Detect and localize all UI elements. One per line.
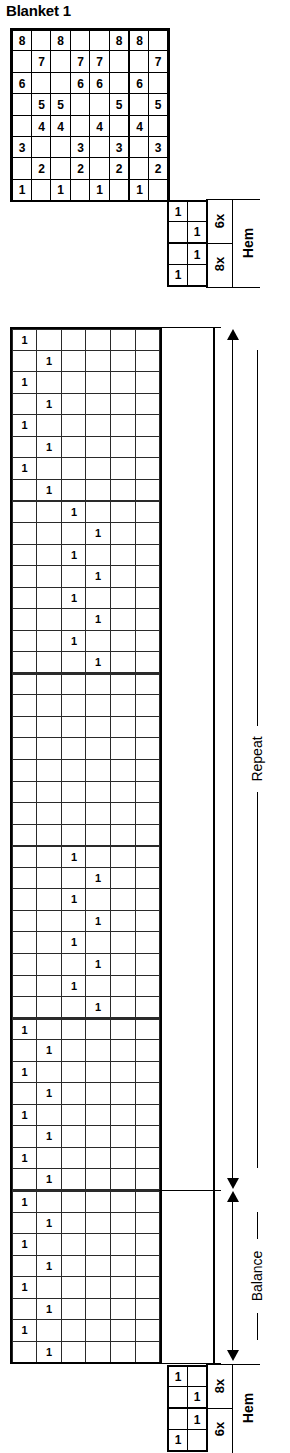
treadling-cell-r18-c5	[110, 694, 136, 717]
treadling-cell-r1-c5	[110, 328, 136, 351]
treadling-cell-r7-c4	[85, 457, 111, 480]
treadling-cell-r25-c6	[135, 845, 161, 868]
treadling-cell-r38-c5	[110, 1125, 136, 1148]
threading-cell-r7-c4: 2	[70, 157, 91, 180]
treadling-cell-r28-c5	[110, 910, 136, 933]
treadling-cell-r44-c6	[135, 1255, 161, 1278]
treadling-cell-r43-c5	[110, 1233, 136, 1256]
treadling-cell-r45-c5	[110, 1276, 136, 1299]
treadling-cell-r5-c6	[135, 414, 161, 437]
treadling-cell-r14-c2	[36, 608, 62, 631]
treadling-cell-r30-c1	[11, 953, 37, 976]
treadling-cell-r39-c2	[36, 1147, 62, 1170]
treadling-cell-r39-c6	[135, 1147, 161, 1170]
treadling-cell-r1-c3	[61, 328, 87, 351]
treadling-cell-r36-c4	[85, 1082, 111, 1105]
threading-cell-r4-c4	[70, 93, 91, 116]
treadling-cell-r16-c5	[110, 651, 136, 674]
treadling-cell-r13-c1	[11, 587, 37, 610]
threading-cell-r8-c6	[109, 179, 130, 202]
treadling-cell-r32-c2	[36, 996, 62, 1019]
hem-top-bracket-top	[206, 199, 260, 200]
threading-cell-r1-c6: 8	[109, 29, 130, 52]
treadling-cell-r44-c3	[61, 1255, 87, 1278]
treadling-cell-r10-c2	[36, 522, 62, 545]
treadling-cell-r5-c2	[36, 414, 62, 437]
treadling-cell-r28-c6	[135, 910, 161, 933]
treadling-cell-r40-c6	[135, 1168, 161, 1191]
treadling-cell-r8-c6	[135, 479, 161, 502]
treadling-cell-r35-c4	[85, 1061, 111, 1084]
hem-bottom-cell-r3-c7	[167, 1408, 188, 1431]
treadling-cell-r30-c6	[135, 953, 161, 976]
hem-bottom-bracket-line	[232, 1364, 233, 1453]
threading-cell-r4-c2: 5	[31, 93, 52, 116]
hem-bottom-cell-r4-c8	[187, 1429, 208, 1452]
threading-cell-r4-c6: 5	[109, 93, 130, 116]
threading-cell-r2-c5: 7	[89, 50, 110, 73]
threading-cell-r7-c1	[11, 157, 32, 180]
treadling-cell-r45-c2	[36, 1276, 62, 1299]
treadling-cell-r42-c6	[135, 1212, 161, 1235]
treadling-cell-r39-c3	[61, 1147, 87, 1170]
treadling-cell-r30-c5	[110, 953, 136, 976]
treadling-cell-r22-c5	[110, 781, 136, 804]
treadling-cell-r14-c6	[135, 608, 161, 631]
treadling-cell-r25-c5	[110, 845, 136, 868]
treadling-cell-r9-c5	[110, 500, 136, 523]
treadling-cell-r35-c5	[110, 1061, 136, 1084]
threading-cell-r2-c1	[11, 50, 32, 73]
threading-cell-r4-c1	[11, 93, 32, 116]
treadling-cell-r6-c1	[11, 436, 37, 459]
treadling-cell-r29-c6	[135, 931, 161, 954]
treadling-cell-r18-c6: 1	[135, 694, 161, 717]
balance-arrow-head-down	[227, 1350, 239, 1361]
treadling-cell-r22-c3	[61, 781, 87, 804]
treadling-cell-r20-c1	[11, 737, 37, 760]
treadling-cell-r9-c3: 1	[61, 500, 87, 523]
balance-label: Balance	[247, 1243, 267, 1309]
threading-cell-r1-c4	[70, 29, 91, 52]
treadling-cell-r23-c6	[135, 802, 161, 825]
treadling-cell-r33-c5	[110, 1018, 136, 1041]
treadling-cell-r4-c3	[61, 393, 87, 416]
treadling-cell-r42-c2: 1	[36, 1212, 62, 1235]
treadling-cell-r11-c5	[110, 544, 136, 567]
hem-top-repeat-lower: 8x	[211, 251, 227, 277]
treadling-cell-r14-c5	[110, 608, 136, 631]
treadling-cell-r24-c6: 1	[135, 824, 161, 847]
treadling-cell-r33-c3	[61, 1018, 87, 1041]
treadling-cell-r12-c1	[11, 565, 37, 588]
hem-bottom-bracket-mid	[206, 1408, 232, 1409]
treadling-cell-r47-c2	[36, 1319, 62, 1342]
treadling-cell-r27-c1	[11, 888, 37, 911]
treadling-cell-r36-c2: 1	[36, 1082, 62, 1105]
threading-cell-r5-c6	[109, 115, 130, 138]
treadling-cell-r4-c2: 1	[36, 393, 62, 416]
treadling-cell-r35-c1: 1	[11, 1061, 37, 1084]
treadling-cell-r20-c6: 1	[135, 737, 161, 760]
hem-bottom-label: Hem	[239, 1385, 257, 1431]
treadling-cell-r29-c3: 1	[61, 931, 87, 954]
treadling-cell-r4-c6	[135, 393, 161, 416]
treadling-cell-r15-c5	[110, 630, 136, 653]
threading-cell-r2-c6	[109, 50, 130, 73]
treadling-cell-r5-c3	[61, 414, 87, 437]
treadling-cell-r31-c1	[11, 975, 37, 998]
treadling-cell-r11-c3: 1	[61, 544, 87, 567]
treadling-cell-r10-c1	[11, 522, 37, 545]
repeat-top-rule	[159, 327, 221, 328]
treadling-cell-r7-c6	[135, 457, 161, 480]
treadling-cell-r23-c1	[11, 802, 37, 825]
treadling-cell-r26-c1	[11, 867, 37, 890]
treadling-cell-r46-c4	[85, 1298, 111, 1321]
threading-cell-r5-c5: 4	[89, 115, 110, 138]
threading-cell-r8-c5: 1	[89, 179, 110, 202]
treadling-cell-r34-c3	[61, 1039, 87, 1062]
threading-cell-r6-c6: 3	[109, 136, 130, 159]
treadling-cell-r34-c1	[11, 1039, 37, 1062]
treadling-cell-r25-c2	[36, 845, 62, 868]
treadling-cell-r16-c2	[36, 651, 62, 674]
treadling-cell-r34-c4	[85, 1039, 111, 1062]
